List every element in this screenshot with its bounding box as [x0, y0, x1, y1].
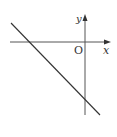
coordinate-plane: y O x — [0, 0, 117, 137]
diagram-canvas: y O x — [0, 0, 117, 137]
origin-label: O — [74, 44, 83, 57]
y-axis-arrow-icon — [83, 14, 88, 21]
graph-line — [11, 23, 100, 115]
y-axis-label: y — [75, 13, 82, 24]
x-axis-label: x — [103, 44, 110, 57]
